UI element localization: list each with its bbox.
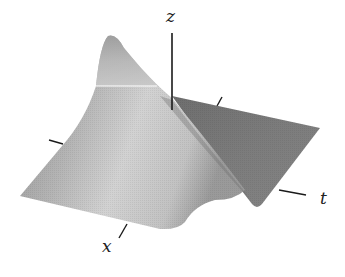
left-tick bbox=[49, 140, 63, 144]
x-axis-label: x bbox=[102, 238, 112, 255]
x-axis bbox=[119, 224, 127, 238]
surface-ridge-crest bbox=[96, 36, 158, 87]
z-axis-label: z bbox=[166, 8, 175, 25]
surface-plot-figure: z t x bbox=[0, 0, 345, 277]
back-tick bbox=[217, 97, 222, 106]
t-axis bbox=[279, 190, 306, 195]
surface-plot-svg bbox=[0, 0, 345, 277]
t-axis-label: t bbox=[320, 190, 327, 207]
